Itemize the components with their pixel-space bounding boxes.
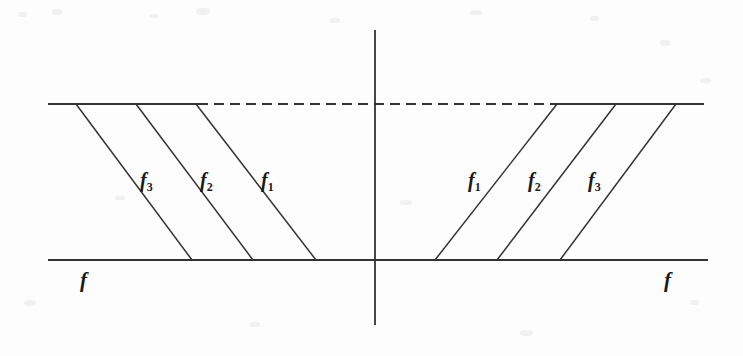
band-label-left-f2: f2 [200,170,213,190]
band-label-right-f1: f1 [468,170,481,190]
left-frequency-axis-label: f [80,270,87,291]
band-label-right-f3: f3 [588,170,601,190]
figure-canvas: f3 f2 f1 f1 f2 f3 f f [0,0,743,356]
left-band-edge-f2 [136,104,253,260]
left-band-edge-f1 [196,104,316,260]
diagram-svg [0,0,743,356]
band-label-right-f2: f2 [528,170,541,190]
right-frequency-axis-label: f [664,270,671,291]
left-band-edge-f3 [76,104,192,260]
right-band-edge-f3 [560,104,676,260]
band-label-left-f3: f3 [140,170,153,190]
band-label-left-f1: f1 [261,170,274,190]
